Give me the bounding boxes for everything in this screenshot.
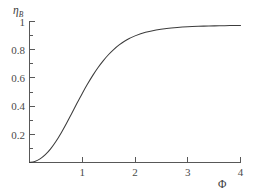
y-tick-label-08: 0.8 <box>11 44 25 56</box>
x-tick-label-3: 3 <box>185 166 191 178</box>
y-axis-title: ηB <box>13 4 24 19</box>
x-tick-label-4: 4 <box>238 166 244 178</box>
y-tick-label-06: 0.6 <box>11 72 25 84</box>
y-axis-ticks <box>30 22 36 135</box>
x-tick-label-2: 2 <box>132 166 138 178</box>
data-curve-eta-b <box>30 25 241 162</box>
x-axis-ticks <box>82 157 240 163</box>
x-tick-label-1: 1 <box>80 166 86 178</box>
plot-canvas: 1 0.8 0.6 0.4 0.2 1 2 3 4 ηB Φ <box>0 0 254 194</box>
y-tick-label-04: 0.4 <box>11 100 25 112</box>
y-axis-title-subscript: B <box>19 10 24 19</box>
x-axis-title: Φ <box>218 178 227 190</box>
chart-figure: 1 0.8 0.6 0.4 0.2 1 2 3 4 ηB Φ <box>0 0 254 194</box>
y-tick-label-02: 0.2 <box>11 129 25 141</box>
